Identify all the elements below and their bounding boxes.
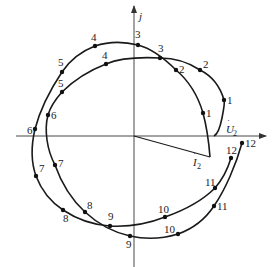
voltage-locus-points — [46, 56, 244, 238]
svg-text:3: 3 — [158, 42, 164, 54]
svg-text:9: 9 — [126, 238, 132, 250]
svg-text:2: 2 — [197, 162, 201, 171]
svg-text:10: 10 — [164, 223, 176, 235]
svg-text:2: 2 — [233, 129, 237, 138]
i2-label: I 2 · — [192, 148, 201, 171]
phasor-diagram: j 1 2 3 4 5 — [0, 0, 276, 267]
svg-text:2: 2 — [179, 63, 185, 75]
svg-text:8: 8 — [87, 199, 93, 211]
svg-text:11: 11 — [205, 176, 216, 188]
svg-text:7: 7 — [58, 157, 64, 169]
imaginary-axis-label: j — [137, 10, 142, 22]
svg-text:8: 8 — [63, 212, 69, 224]
voltage-locus-curve — [46, 58, 242, 239]
svg-text:12: 12 — [226, 144, 237, 156]
svg-text:3: 3 — [135, 28, 141, 40]
svg-text:10: 10 — [158, 203, 170, 215]
svg-text:5: 5 — [58, 77, 64, 89]
current-locus-points — [33, 43, 233, 228]
svg-text:4: 4 — [102, 49, 108, 61]
u2-label: U 2 · — [226, 115, 237, 138]
svg-text:7: 7 — [39, 162, 45, 174]
svg-text:1: 1 — [227, 94, 233, 106]
i2-phasor-line — [134, 136, 210, 157]
svg-text:5: 5 — [58, 56, 64, 68]
svg-text:12: 12 — [245, 137, 256, 149]
svg-text:9: 9 — [108, 210, 114, 222]
svg-text:11: 11 — [217, 200, 228, 212]
svg-text:6: 6 — [27, 124, 33, 136]
svg-text:2: 2 — [203, 58, 209, 70]
svg-text:6: 6 — [51, 109, 57, 121]
svg-text:4: 4 — [91, 31, 97, 43]
svg-text:·: · — [227, 115, 230, 125]
svg-text:1: 1 — [206, 107, 212, 119]
svg-text:·: · — [193, 148, 196, 158]
